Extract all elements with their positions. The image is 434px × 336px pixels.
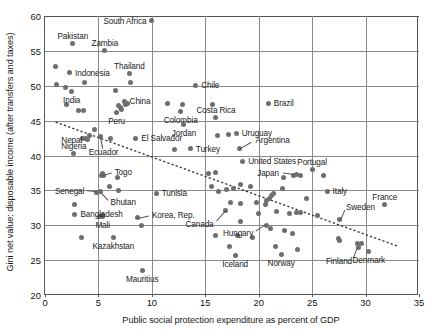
data-point[interactable] — [215, 133, 220, 138]
point-label: Chile — [201, 81, 219, 90]
data-point[interactable] — [172, 147, 177, 152]
x-tick-label: 20 — [253, 297, 263, 308]
y-axis-title: Gini net value: disposable income (after… — [2, 4, 18, 300]
point-label: Japan — [257, 169, 279, 178]
point-label: United States — [248, 157, 296, 166]
data-point[interactable] — [216, 189, 221, 194]
point-label: Pakistan — [57, 31, 88, 40]
data-point[interactable] — [248, 184, 253, 189]
point-label: Turkey — [196, 144, 220, 153]
point-label: Colombia — [164, 116, 198, 125]
y-tick-label: 25 — [31, 255, 41, 266]
data-point-labeled[interactable] — [234, 131, 239, 136]
y-tick-label: 40 — [31, 150, 41, 161]
point-label: Hungary — [223, 229, 253, 238]
point-label: Bhutan — [111, 197, 136, 206]
point-label: Peru — [108, 116, 125, 125]
data-point-labeled[interactable] — [366, 249, 371, 254]
data-point[interactable] — [82, 80, 87, 85]
data-point[interactable] — [81, 108, 86, 113]
data-point-labeled[interactable] — [122, 99, 127, 104]
y-tick-label: 30 — [31, 220, 41, 231]
point-label: Bangladesh — [80, 210, 122, 219]
data-point[interactable] — [108, 136, 113, 141]
point-label: Indonesia — [75, 68, 110, 77]
point-label: Iceland — [222, 260, 248, 269]
data-point-labeled[interactable] — [70, 41, 75, 46]
data-point[interactable] — [295, 247, 300, 252]
data-point-labeled[interactable] — [127, 71, 132, 76]
point-label: Ecuador — [89, 147, 119, 156]
point-label: El Salvador — [141, 134, 182, 143]
x-tick-label: 10 — [147, 297, 157, 308]
x-tick-label: 0 — [42, 297, 47, 308]
data-point-labeled[interactable] — [133, 136, 138, 141]
data-point[interactable] — [79, 235, 84, 240]
y-tick-label: 60 — [31, 11, 41, 22]
data-point-labeled[interactable] — [193, 83, 198, 88]
data-point-labeled[interactable] — [188, 146, 193, 151]
point-label: Finland — [326, 256, 352, 265]
data-point[interactable] — [298, 173, 303, 178]
point-label: Thailand — [114, 61, 145, 70]
y-tick-label: 20 — [31, 290, 41, 301]
data-point-labeled[interactable] — [111, 235, 116, 240]
point-label: Costa Rica — [196, 105, 235, 114]
data-point[interactable] — [76, 108, 81, 113]
point-label: France — [372, 192, 397, 201]
point-label: Togo — [115, 168, 132, 177]
data-point[interactable] — [281, 175, 286, 180]
data-point-labeled[interactable] — [310, 167, 315, 172]
data-point[interactable] — [280, 186, 285, 191]
point-label: Mali — [95, 221, 110, 230]
point-label: Mauritius — [126, 275, 158, 284]
data-point[interactable] — [315, 213, 320, 218]
data-point[interactable] — [282, 228, 287, 233]
point-label: China — [130, 97, 151, 106]
y-tick-label: 35 — [31, 185, 41, 196]
data-point[interactable] — [263, 202, 268, 207]
point-label: Denmark — [353, 255, 386, 264]
data-point[interactable] — [321, 173, 326, 178]
y-tick-label: 55 — [31, 45, 41, 56]
point-label: Brazil — [274, 99, 294, 108]
point-label: Canada — [185, 219, 213, 228]
data-point[interactable] — [139, 223, 144, 228]
point-label: Nigeria — [61, 141, 86, 150]
x-tick-label: 35 — [414, 297, 424, 308]
point-label: Tunisia — [162, 189, 187, 198]
point-label: South Africa — [103, 17, 146, 26]
point-label: Korea, Rep. — [152, 210, 195, 219]
data-point-labeled[interactable] — [154, 191, 159, 196]
point-label: Portugal — [297, 157, 327, 166]
x-axis-title: Public social protection expenditure as … — [44, 315, 418, 325]
point-label: Kazakhstan — [92, 241, 134, 250]
point-label: Sweden — [346, 202, 375, 211]
point-label: Argentina — [255, 135, 289, 144]
point-label: India — [63, 95, 80, 104]
data-point[interactable] — [209, 184, 214, 189]
data-point-labeled[interactable] — [325, 189, 330, 194]
data-point-labeled[interactable] — [140, 268, 145, 273]
y-tick-label: 45 — [31, 115, 41, 126]
scatter-chart-figure: Gini net value: disposable income (after… — [0, 0, 434, 336]
data-point-labeled[interactable] — [240, 159, 245, 164]
point-label: Zambia — [91, 39, 118, 48]
data-point[interactable] — [231, 186, 236, 191]
data-point-labeled[interactable] — [279, 252, 284, 257]
point-label: Italy — [333, 187, 348, 196]
data-point[interactable] — [238, 182, 243, 187]
data-point[interactable] — [92, 127, 97, 132]
x-tick-label: 15 — [200, 297, 210, 308]
point-label: Senegal — [55, 187, 84, 196]
data-point-labeled[interactable] — [266, 101, 271, 106]
data-point-labeled[interactable] — [114, 110, 119, 115]
plot-area: 202530354045505560 05101520253035 South … — [44, 16, 418, 295]
x-tick-label: 25 — [307, 297, 317, 308]
data-point[interactable] — [238, 219, 243, 224]
point-label: Norway — [268, 259, 295, 268]
x-tick-label: 5 — [96, 297, 101, 308]
y-tick-label: 50 — [31, 80, 41, 91]
x-tick-label: 30 — [360, 297, 370, 308]
